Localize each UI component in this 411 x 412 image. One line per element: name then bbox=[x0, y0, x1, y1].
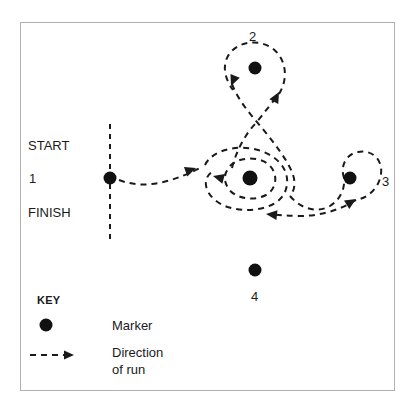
arrow-center-loop bbox=[212, 171, 225, 184]
key-heading: KEY bbox=[37, 294, 60, 307]
label-start-number: 1 bbox=[29, 172, 36, 185]
key-marker-swatch bbox=[40, 319, 53, 332]
route-2-down-crossing bbox=[232, 84, 294, 196]
marker-3 bbox=[344, 172, 357, 185]
marker-start-1 bbox=[104, 172, 117, 185]
arrow-return-left bbox=[265, 209, 277, 220]
marker-center bbox=[243, 171, 258, 186]
route-center-to-3 bbox=[290, 178, 344, 210]
label-marker-3: 3 bbox=[382, 175, 389, 188]
marker-2 bbox=[249, 62, 262, 75]
label-marker-2: 2 bbox=[249, 30, 256, 43]
key-direction-label-line1: Direction bbox=[112, 345, 163, 360]
route-return-3-to-center bbox=[270, 200, 356, 216]
marker-4 bbox=[249, 264, 262, 277]
label-finish: FINISH bbox=[28, 206, 71, 219]
key-marker-label: Marker bbox=[112, 318, 152, 333]
arrow-into-3 bbox=[344, 195, 359, 209]
label-start: START bbox=[28, 139, 69, 152]
route-center-up-to-2 bbox=[232, 95, 278, 168]
label-marker-4: 4 bbox=[251, 290, 258, 303]
figure-root: START 1 FINISH 2 3 4 KEY Marker Directio… bbox=[0, 0, 411, 412]
key-direction-arrowhead bbox=[64, 351, 74, 360]
key-direction-label-line2: of run bbox=[112, 362, 145, 377]
